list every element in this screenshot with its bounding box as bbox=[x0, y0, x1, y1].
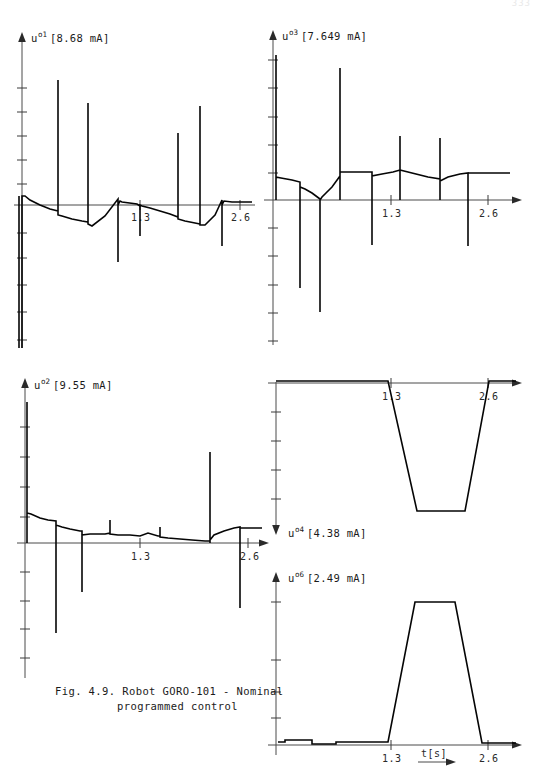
plot-u-o2-xaxis-arrow-icon bbox=[259, 539, 269, 546]
time-axis-annotation: t[s] bbox=[418, 748, 456, 765]
plot-u-o1-label-symbol: u bbox=[31, 32, 38, 44]
plot-u-o3-label-superscript: o3 bbox=[289, 28, 298, 37]
plot-u-o3-label-unit: [7.649 mA] bbox=[301, 30, 367, 42]
plot-u-o3-curve bbox=[276, 55, 510, 312]
plot-u-o3-xaxis-arrow-icon bbox=[512, 196, 522, 203]
plot-u-o1-label-superscript: o1 bbox=[38, 30, 47, 39]
plot-u-o2-curve bbox=[27, 402, 262, 633]
plot-u-o2: 1.3 2.6 u o2 [9.55 mA] bbox=[17, 377, 269, 678]
figure-caption: Fig. 4.9. Robot GORO-101 - Nominalprogra… bbox=[55, 684, 284, 714]
plot-u-o6: 1.3 2.6 u o6 [2.49 mA] t[s] bbox=[268, 570, 522, 765]
plot-u-o2-xtick-mid: 1.3 bbox=[131, 551, 151, 562]
plot-u-o6-label-symbol: u bbox=[288, 572, 295, 584]
plot-u-o3-label-symbol: u bbox=[282, 30, 289, 42]
plot-u-o6-label-superscript: o6 bbox=[295, 570, 305, 579]
figure-caption-line1: Fig. 4.9. Robot GORO-101 - Nominal bbox=[55, 685, 284, 697]
time-axis-label: t[s] bbox=[421, 748, 447, 759]
plot-u-o2-xtick-end: 2.6 bbox=[240, 551, 260, 562]
figure-page: 333 1.3 2.6 bbox=[0, 0, 547, 782]
plot-u-o4-xtick-end: 2.6 bbox=[479, 391, 499, 402]
plot-u-o4-label-unit: [4.38 mA] bbox=[307, 527, 367, 539]
plot-u-o4-label-symbol: u bbox=[288, 527, 295, 539]
plot-u-o2-label-superscript: o2 bbox=[41, 377, 50, 386]
time-axis-arrow-icon bbox=[446, 759, 456, 766]
figure-canvas: 1.3 2.6 u o1 [8.68 mA] bbox=[0, 0, 547, 782]
plot-u-o3-xtick-end: 2.6 bbox=[479, 208, 499, 219]
plot-u-o3-xtick-mid: 1.3 bbox=[382, 208, 402, 219]
plot-u-o6-xtick-mid: 1.3 bbox=[382, 753, 402, 764]
plot-u-o1-xtick-end: 2.6 bbox=[231, 212, 251, 223]
plot-u-o2-label-symbol: u bbox=[34, 379, 41, 391]
plot-u-o6-xtick-end: 2.6 bbox=[479, 753, 499, 764]
plot-u-o6-yaxis-arrow-icon bbox=[272, 572, 280, 582]
plot-u-o6-label-unit: [2.49 mA] bbox=[307, 572, 367, 584]
plot-u-o3-yaxis-arrow-icon bbox=[269, 30, 277, 40]
figure-caption-line2: programmed control bbox=[55, 699, 284, 714]
plot-u-o1-yaxis-arrow-icon bbox=[18, 32, 26, 42]
plot-u-o4-label-superscript: o4 bbox=[295, 525, 305, 534]
plot-u-o1: 1.3 2.6 u o1 [8.68 mA] bbox=[14, 30, 255, 348]
plot-u-o4: 1.3 2.6 u o4 [4.38 mA] bbox=[268, 378, 522, 539]
plot-u-o4-yaxis-arrow-icon bbox=[272, 525, 280, 535]
plot-u-o1-label-unit: [8.68 mA] bbox=[50, 32, 110, 44]
plot-u-o2-label-unit: [9.55 mA] bbox=[53, 379, 113, 391]
plot-u-o3: 1.3 2.6 u o3 [7.649 mA] bbox=[264, 28, 522, 345]
plot-u-o6-curve bbox=[278, 602, 516, 744]
plot-u-o2-yaxis-arrow-icon bbox=[21, 378, 29, 388]
